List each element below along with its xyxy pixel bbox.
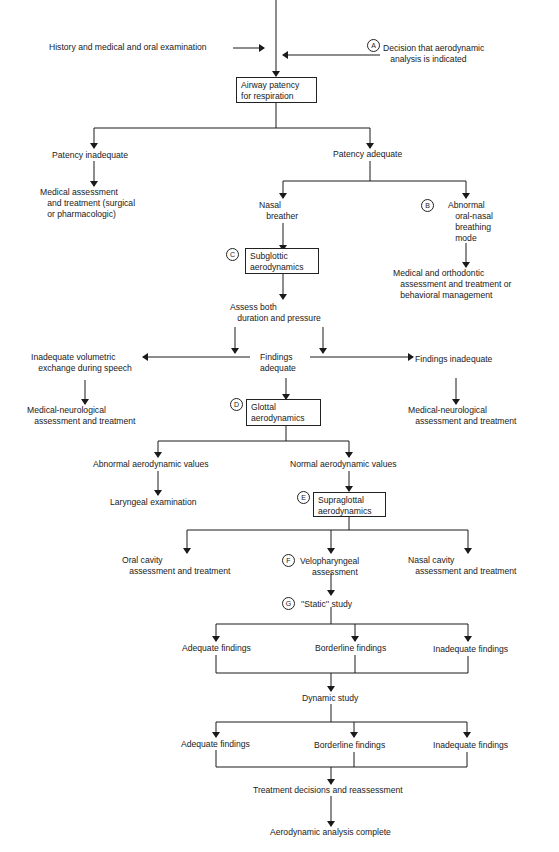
- glottal-aerodynamics-box: Glottal aerodynamics: [246, 399, 321, 426]
- findings-adequate-label: Findings adequate: [260, 352, 296, 374]
- velopharyngeal-label: Velopharyngeal assessment: [300, 556, 359, 578]
- marker-f-icon: F: [282, 554, 295, 567]
- supraglottal-aerodynamics-box: Supraglottal aerodynamics: [313, 492, 386, 517]
- normal-values-label: Normal aerodynamic values: [290, 459, 397, 470]
- marker-d-icon: D: [230, 398, 243, 411]
- dynamic-study-label: Dynamic study: [302, 693, 358, 704]
- abnormal-breathing-mode-label: Abnormal oral-nasal breathing mode: [448, 200, 493, 244]
- patency-adequate-label: Patency adequate: [333, 149, 402, 160]
- analysis-complete-label: Aerodynamic analysis complete: [270, 827, 391, 838]
- inadequate-volumetric-label: Inadequate volumetric exchange during sp…: [31, 352, 132, 374]
- medical-assessment-label: Medical assessment and treatment (surgic…: [40, 187, 135, 220]
- subglottic-aerodynamics-box: Subglottic aerodynamics: [245, 248, 319, 274]
- marker-c-icon: C: [226, 248, 239, 261]
- dynamic-borderline-label: Borderline findings: [314, 740, 385, 751]
- marker-b-icon: B: [421, 199, 434, 212]
- abnormal-values-label: Abnormal aerodynamic values: [93, 459, 209, 470]
- oral-cavity-label: Oral cavity assessment and treatment: [122, 555, 230, 577]
- static-adequate-label: Adequate findings: [182, 643, 251, 654]
- history-exam-label: History and medical and oral examination: [49, 42, 207, 53]
- patency-inadequate-label: Patency inadequate: [52, 150, 128, 161]
- dynamic-inadequate-label: Inadequate findings: [433, 740, 508, 751]
- findings-inadequate-label: Findings inadequate: [415, 354, 492, 365]
- dynamic-adequate-label: Adequate findings: [181, 739, 250, 750]
- nasal-cavity-label: Nasal cavity assessment and treatment: [408, 555, 516, 577]
- static-borderline-label: Borderline findings: [315, 643, 386, 654]
- treatment-decisions-label: Treatment decisions and reassessment: [253, 785, 403, 796]
- flowchart-canvas: History and medical and oral examination…: [0, 0, 559, 852]
- airway-patency-box: Airway patency for respiration: [236, 77, 317, 103]
- marker-a-icon: A: [367, 39, 380, 52]
- assess-both-label: Assess both duration and pressure: [230, 302, 321, 324]
- static-inadequate-label: Inadequate findings: [433, 644, 508, 655]
- medical-neurological-left-label: Medical-neurological assessment and trea…: [27, 405, 135, 427]
- medical-orthodontic-label: Medical and orthodontic assessment and t…: [393, 268, 511, 301]
- laryngeal-exam-label: Laryngeal examination: [110, 497, 196, 508]
- static-study-label: ''Static'' study: [301, 599, 352, 610]
- nasal-breather-label: Nasal breather: [259, 200, 298, 222]
- decision-label: Decision that aerodynamic analysis is in…: [383, 43, 484, 65]
- marker-e-icon: E: [297, 491, 310, 504]
- medical-neurological-right-label: Medical-neurological assessment and trea…: [408, 405, 516, 427]
- marker-g-icon: G: [282, 597, 295, 610]
